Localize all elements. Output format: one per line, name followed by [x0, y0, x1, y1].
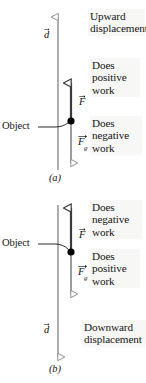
negative-work-annotation-a-line1: Does	[92, 117, 140, 129]
applied-force-symbol-text-a: F	[79, 96, 85, 107]
gravity-force-symbol-b: Fg	[78, 266, 88, 280]
negative-work-annotation-b: Does negative work	[90, 200, 142, 239]
negative-work-annotation-a-line3: work	[92, 142, 140, 154]
panel-a: Object d F Fg Upward disp	[0, 0, 146, 192]
physics-figure-work-and-displacement: Object d F Fg Upward disp	[0, 0, 146, 383]
displacement-annotation-b-line2: displacement	[84, 333, 144, 345]
negative-work-annotation-b-line1: Does	[92, 201, 140, 213]
object-dot-a	[67, 117, 74, 124]
positive-work-annotation-b-line1: Does	[92, 250, 138, 262]
displacement-symbol-text-b: d	[44, 324, 49, 335]
object-leader-line-a	[38, 123, 69, 128]
applied-force-symbol-a: F	[79, 96, 85, 107]
displacement-symbol-b: d	[44, 324, 49, 335]
displacement-annotation-a-line1: Upward	[90, 10, 143, 22]
object-leader-line-b	[38, 244, 69, 250]
displacement-annotation-a-line2: displacement	[90, 22, 143, 34]
panel-b-caption: (b)	[0, 363, 128, 374]
negative-work-annotation-b-line2: negative	[92, 213, 140, 225]
displacement-symbol-text-a: d	[44, 29, 49, 40]
panel-b: Object F Fg d Does negati	[0, 191, 146, 383]
object-label-a: Object	[2, 120, 30, 131]
displacement-annotation-b: Downward displacement	[82, 320, 146, 347]
applied-force-symbol-text-b: F	[79, 229, 85, 240]
applied-force-symbol-b: F	[79, 229, 85, 240]
negative-work-annotation-b-line3: work	[92, 226, 140, 238]
displacement-annotation-b-line1: Downward	[84, 321, 144, 333]
positive-work-annotation-a-line2: positive	[92, 71, 138, 83]
gravity-force-subscript-a: g	[84, 144, 88, 152]
negative-work-annotation-a: Does negative work	[90, 116, 142, 155]
positive-work-annotation-a: Does positive work	[90, 58, 140, 97]
displacement-symbol-a: d	[44, 29, 49, 40]
positive-work-annotation-a-line1: Does	[92, 59, 138, 71]
gravity-force-subscript-b: g	[84, 274, 88, 282]
panel-a-caption: (a)	[0, 172, 128, 183]
object-label-b: Object	[2, 237, 30, 248]
negative-work-annotation-a-line2: negative	[92, 129, 140, 141]
positive-work-annotation-b-line2: positive	[92, 262, 138, 274]
displacement-annotation-a: Upward displacement	[88, 9, 145, 36]
positive-work-annotation-b-line3: work	[92, 275, 138, 287]
gravity-force-symbol-a: Fg	[78, 136, 88, 150]
positive-work-annotation-b: Does positive work	[90, 249, 140, 288]
positive-work-annotation-a-line3: work	[92, 84, 138, 96]
